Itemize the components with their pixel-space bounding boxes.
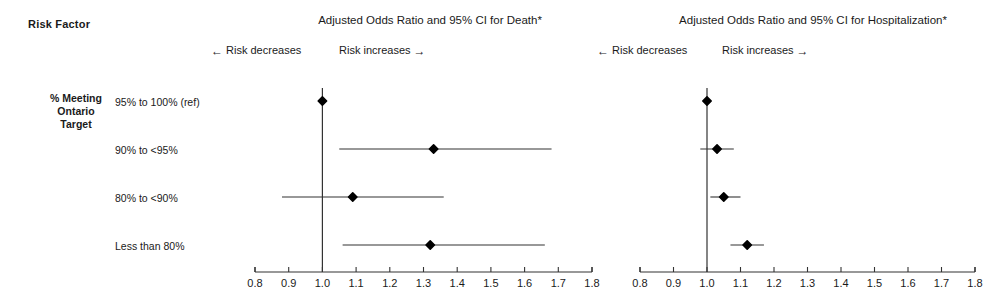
point-estimate-death-2	[349, 193, 357, 201]
tick-label-death-0: 0.8	[240, 277, 270, 289]
left-arrow-icon: ←	[211, 44, 223, 58]
group-label-line-3: Target	[38, 118, 114, 131]
group-label-line-2: Ontario	[38, 105, 114, 118]
point-estimate-hospitalization-2	[720, 193, 728, 201]
risk-increases-label-hospitalization: Risk increases	[722, 44, 794, 56]
tick-label-hospitalization-5: 1.3	[793, 277, 823, 289]
risk-factor-header: Risk Factor	[28, 18, 90, 30]
row-label-3: Less than 80%	[115, 240, 184, 252]
risk-decreases-label-death: Risk decreases	[226, 44, 301, 56]
tick-label-hospitalization-0: 0.8	[625, 277, 655, 289]
tick-label-death-10: 1.8	[577, 277, 607, 289]
row-label-0: 95% to 100% (ref)	[115, 96, 200, 108]
row-label-2: 80% to <90%	[115, 192, 178, 204]
right-arrow-icon: →	[797, 44, 809, 58]
tick-label-death-2: 1.0	[307, 277, 337, 289]
panel-title-death: Adjusted Odds Ratio and 95% CI for Death…	[305, 14, 555, 26]
panel-title-hospitalization: Adjusted Odds Ratio and 95% CI for Hospi…	[648, 14, 978, 26]
point-estimate-death-0	[318, 97, 326, 105]
tick-label-death-1: 0.9	[274, 277, 304, 289]
group-label-line-1: % Meeting	[38, 92, 114, 105]
tick-label-hospitalization-7: 1.5	[860, 277, 890, 289]
tick-label-death-6: 1.4	[442, 277, 472, 289]
point-estimate-hospitalization-0	[703, 97, 711, 105]
tick-label-hospitalization-8: 1.6	[893, 277, 923, 289]
tick-label-death-4: 1.2	[375, 277, 405, 289]
risk-decreases-annotation-hospitalization: ← Risk decreases	[597, 44, 687, 57]
risk-increases-annotation-hospitalization: Risk increases →	[722, 44, 809, 57]
tick-label-hospitalization-2: 1.0	[692, 277, 722, 289]
tick-label-hospitalization-4: 1.2	[759, 277, 789, 289]
tick-label-hospitalization-3: 1.1	[726, 277, 756, 289]
tick-label-death-5: 1.3	[409, 277, 439, 289]
forest-plot-figure: Risk Factor Adjusted Odds Ratio and 95% …	[0, 0, 1000, 301]
tick-label-hospitalization-10: 1.8	[960, 277, 990, 289]
tick-label-death-9: 1.7	[543, 277, 573, 289]
right-arrow-icon: →	[414, 44, 426, 58]
point-estimate-hospitalization-1	[713, 145, 721, 153]
tick-label-death-3: 1.1	[341, 277, 371, 289]
tick-label-hospitalization-9: 1.7	[927, 277, 957, 289]
risk-increases-label-death: Risk increases	[339, 44, 411, 56]
tick-label-death-7: 1.5	[476, 277, 506, 289]
group-label-meeting-ontario-target: % Meeting Ontario Target	[38, 92, 114, 131]
point-estimate-hospitalization-3	[743, 241, 751, 249]
point-estimate-death-1	[429, 145, 437, 153]
risk-decreases-annotation-death: ← Risk decreases	[211, 44, 301, 57]
risk-increases-annotation-death: Risk increases →	[339, 44, 426, 57]
risk-decreases-label-hospitalization: Risk decreases	[612, 44, 687, 56]
left-arrow-icon: ←	[597, 44, 609, 58]
row-label-1: 90% to <95%	[115, 144, 178, 156]
tick-label-hospitalization-1: 0.9	[659, 277, 689, 289]
tick-label-death-8: 1.6	[510, 277, 540, 289]
point-estimate-death-3	[426, 241, 434, 249]
direction-annotations: ← Risk decreases Risk increases → ← Risk…	[0, 44, 1000, 60]
tick-label-hospitalization-6: 1.4	[826, 277, 856, 289]
